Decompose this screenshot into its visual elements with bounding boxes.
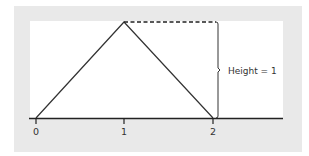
triangle-diagram: 0 1 2 Height = 1 bbox=[0, 0, 309, 156]
tick-label-2: 2 bbox=[210, 126, 216, 137]
tick-label-0: 0 bbox=[33, 126, 39, 137]
tick-label-1: 1 bbox=[121, 126, 127, 137]
triangle-line bbox=[36, 22, 213, 118]
height-annotation: Height = 1 bbox=[228, 66, 277, 76]
height-brace bbox=[216, 22, 220, 118]
